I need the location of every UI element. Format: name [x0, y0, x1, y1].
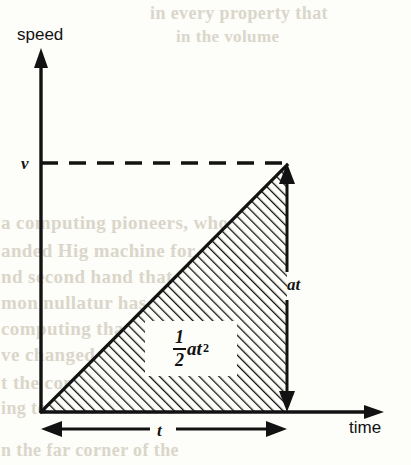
speed-time-figure: in every property thatin the volumea com… [0, 0, 411, 465]
area-formula-expression: 1 2 at 2 [173, 328, 209, 369]
x-axis-arrowhead [364, 405, 384, 419]
area-formula: 1 2 at 2 [145, 321, 237, 376]
x-value-label-t: t [157, 422, 162, 439]
y-axis-arrowhead [34, 48, 48, 68]
t-measure-arrowhead-left [41, 421, 62, 437]
x-axis-label: time [349, 419, 381, 436]
rise-label-at: at [287, 276, 300, 293]
area-formula-symbol: at [187, 338, 202, 360]
graph-canvas [0, 0, 411, 465]
y-axis-label: speed [17, 26, 63, 43]
fraction-denominator: 2 [173, 351, 186, 369]
fraction-numerator: 1 [173, 328, 186, 346]
area-formula-exponent: 2 [203, 341, 209, 356]
t-measure-arrowhead-right [266, 421, 287, 437]
one-half-fraction: 1 2 [173, 328, 186, 369]
y-value-label-v: v [21, 155, 29, 172]
